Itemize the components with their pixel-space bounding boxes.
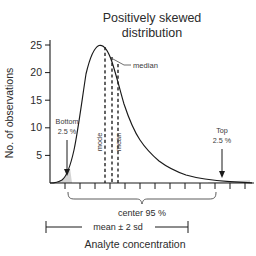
y-tick-label-15: 15 xyxy=(30,94,42,106)
chart-title-line2: distribution xyxy=(122,26,182,40)
median-annotation-label: median xyxy=(133,61,158,70)
figure-canvas: Positively skewed distribution No. of ob… xyxy=(0,0,256,256)
y-tick-label-5: 5 xyxy=(36,149,42,161)
x-axis-label: Analyte concentration xyxy=(85,238,186,250)
mean-2sd-label: mean ± 2 sd xyxy=(93,222,142,232)
center-95-label: center 95 % xyxy=(118,208,166,218)
bottom-tail-label-line1: Bottom xyxy=(56,117,79,126)
mean-label: mean xyxy=(114,133,123,152)
mode-label: mode xyxy=(95,133,104,152)
y-tick-label-20: 20 xyxy=(30,66,42,78)
top-tail-label-line2: 2.5 % xyxy=(213,136,232,145)
top-tail-label-line1: Top xyxy=(216,126,228,135)
skewed-distribution-chart: Positively skewed distribution No. of ob… xyxy=(0,0,256,256)
y-axis-label: No. of observations xyxy=(3,68,15,158)
chart-title-line1: Positively skewed xyxy=(103,11,202,25)
bottom-tail-label-line2: 2.5 % xyxy=(58,127,77,136)
y-tick-label-25: 25 xyxy=(30,39,42,51)
y-tick-label-10: 10 xyxy=(30,121,42,133)
